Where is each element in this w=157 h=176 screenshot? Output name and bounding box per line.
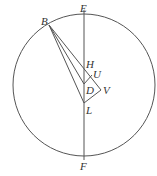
geometry-diagram: B E H U D V L F [0,0,157,176]
line-BD [49,25,84,84]
label-E: E [79,2,87,14]
label-L: L [85,104,92,116]
diagram-canvas: B E H U D V L F [0,0,157,176]
label-F: F [79,160,87,172]
line-DU [84,75,92,84]
label-D: D [85,84,94,96]
label-V: V [103,84,111,96]
label-B: B [41,15,48,27]
label-U: U [93,68,102,80]
line-BL [49,25,84,103]
